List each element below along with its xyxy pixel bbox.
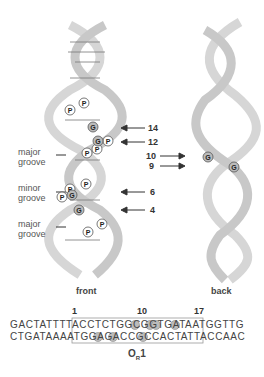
groove-label-minor: minorgroove: [18, 183, 46, 203]
svg-text:P: P: [86, 229, 91, 236]
position-6: 6: [150, 187, 155, 197]
seq-position-1: 1: [72, 306, 77, 316]
position-10: 10: [146, 151, 156, 161]
position-12: 12: [148, 137, 158, 147]
svg-text:P: P: [84, 181, 89, 188]
svg-text:G: G: [76, 207, 82, 214]
svg-text:P: P: [106, 138, 111, 145]
svg-text:P: P: [60, 194, 65, 201]
top-strand: GACTATTTTACCTCTGGCGGTGATAATGGTTG: [10, 319, 244, 330]
front-label: front: [76, 286, 97, 296]
operator-label: OR1: [128, 348, 146, 361]
position-4: 4: [150, 205, 155, 215]
groove-label-major-1: majorgroove: [18, 147, 46, 167]
groove-label-major-2: majorgroove: [18, 219, 46, 239]
svg-text:P: P: [68, 107, 73, 114]
position-9: 9: [149, 161, 154, 171]
svg-text:P: P: [100, 221, 105, 228]
seq-position-10: 10: [137, 306, 147, 316]
back-helix: [196, 22, 257, 280]
position-14: 14: [148, 123, 158, 133]
svg-text:G: G: [69, 192, 75, 199]
svg-text:P: P: [82, 100, 87, 107]
svg-text:P: P: [85, 150, 90, 157]
svg-text:G: G: [90, 124, 96, 131]
svg-text:G: G: [231, 164, 237, 171]
svg-text:P: P: [95, 146, 100, 153]
svg-text:G: G: [205, 154, 211, 161]
svg-text:G: G: [95, 138, 101, 145]
bottom-strand: CTGATAAAATGGAGACCGCCACTATTACCAAC: [10, 331, 245, 342]
back-label: back: [211, 286, 232, 296]
seq-position-17: 17: [194, 306, 204, 316]
